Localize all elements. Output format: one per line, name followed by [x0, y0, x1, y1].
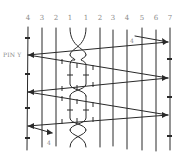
braid-lines: [0, 0, 185, 163]
